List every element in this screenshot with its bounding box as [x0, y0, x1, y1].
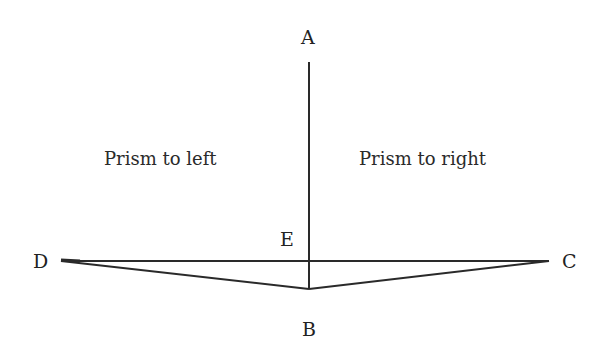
- label-A: A: [301, 28, 315, 47]
- label-C: C: [562, 252, 577, 271]
- label-D: D: [33, 252, 48, 271]
- region-label-right: Prism to right: [359, 150, 486, 168]
- line-DB: [61, 261, 309, 289]
- label-B: B: [302, 320, 316, 339]
- prism-diagram: A E D C B Prism to left Prism to right: [0, 0, 610, 364]
- line-D-tip: [61, 260, 80, 261]
- region-label-left: Prism to left: [104, 150, 217, 168]
- line-CB: [309, 261, 549, 289]
- diagram-lines: [0, 0, 610, 364]
- label-E: E: [280, 230, 294, 249]
